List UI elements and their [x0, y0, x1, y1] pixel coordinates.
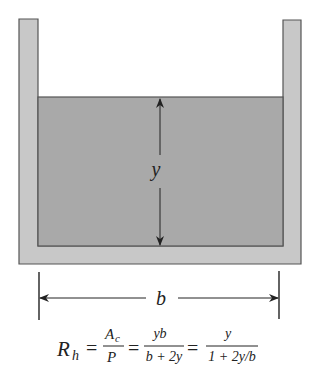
width-label: b — [156, 287, 166, 309]
eq-lhs-sub: h — [72, 348, 79, 363]
hydraulic-radius-equation: R h = A c P = yb b + 2y = y 1 + 2y/b — [56, 326, 258, 365]
eq-equals-3: = — [187, 337, 198, 359]
frac1-den: P — [106, 349, 116, 365]
frac1-num-sub: c — [115, 332, 120, 344]
frac3-num: y — [223, 326, 232, 341]
channel-diagram: y b R h = A c P = yb b + 2y = y 1 + 2y/b — [0, 0, 323, 382]
frac2-num: yb — [151, 326, 166, 341]
width-dimension: b — [39, 271, 279, 320]
frac1-num: A — [104, 326, 115, 342]
eq-equals-1: = — [86, 337, 97, 359]
eq-lhs: R — [56, 337, 70, 361]
eq-equals-2: = — [128, 337, 139, 359]
frac3-den: 1 + 2y/b — [208, 349, 256, 364]
depth-label: y — [150, 158, 161, 181]
frac2-den: b + 2y — [146, 349, 183, 364]
